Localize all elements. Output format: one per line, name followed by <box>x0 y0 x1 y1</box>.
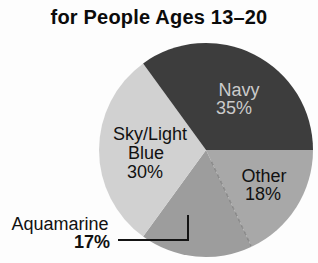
pie-chart-figure: for People Ages 13–20 Other18%Aquamarine… <box>0 0 318 263</box>
pie-label-sky-light-blue: Blue <box>128 143 164 163</box>
pie-label-sky-light-blue: 30% <box>127 162 163 182</box>
pie-label-other: 18% <box>245 184 281 204</box>
pie-label-sky-light-blue: Sky/Light <box>113 124 187 144</box>
pie-label-aquamarine: Aquamarine <box>11 214 108 234</box>
pie-label-navy: Navy <box>218 80 259 100</box>
pie-label-other: Other <box>241 166 286 186</box>
pie-label-aquamarine: 17% <box>74 232 110 252</box>
pie-chart: Other18%Aquamarine17%Sky/LightBlue30%Nav… <box>0 0 318 263</box>
pie-label-navy: 35% <box>216 98 252 118</box>
